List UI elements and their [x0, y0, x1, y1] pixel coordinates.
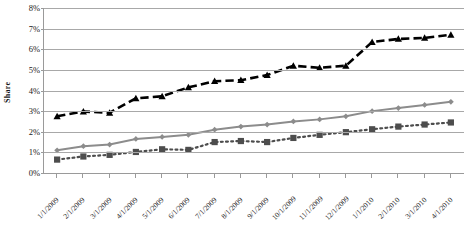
series-diamond	[54, 99, 454, 153]
series-diamond-marker	[343, 113, 349, 119]
series-diamond-marker	[133, 136, 139, 142]
x-axis-tick-mark	[450, 174, 451, 178]
gridline	[44, 111, 464, 112]
x-axis-tick-mark	[161, 174, 162, 178]
x-axis-tick-mark	[56, 174, 57, 178]
series-square-marker	[448, 119, 454, 125]
series-triangle-marker	[447, 31, 454, 37]
y-axis-tick-label: 6%	[16, 45, 40, 54]
x-axis-tick-mark	[397, 174, 398, 178]
share-line-chart: Share 0%1%2%3%4%5%6%7%8% 1/1/20092/1/200…	[0, 0, 470, 233]
x-axis-tick-mark	[266, 174, 267, 178]
y-axis-tick-mark	[41, 152, 44, 153]
y-axis-tick-mark	[41, 111, 44, 112]
series-triangle-marker	[369, 38, 376, 44]
x-axis-tick-mark	[292, 174, 293, 178]
series-triangle	[54, 31, 455, 119]
gridline	[44, 132, 464, 133]
series-diamond-marker	[448, 99, 454, 105]
y-axis-tick-label: 3%	[16, 107, 40, 116]
series-square-marker	[264, 139, 270, 145]
y-axis-title: Share	[0, 62, 14, 122]
y-axis-tick-label: 2%	[16, 128, 40, 137]
x-axis-tick-mark	[135, 174, 136, 178]
gridline	[44, 152, 464, 153]
x-axis-tick-mark	[82, 174, 83, 178]
series-square-line	[57, 122, 451, 159]
series-square-marker	[238, 138, 244, 144]
plot-area	[43, 8, 464, 173]
y-axis-tick-label: 0%	[16, 169, 40, 178]
series-diamond-marker	[80, 143, 86, 149]
x-axis-tick-mark	[240, 174, 241, 178]
series-square-marker	[80, 153, 86, 159]
x-axis-tick-mark	[319, 174, 320, 178]
series-diamond-marker	[185, 132, 191, 138]
y-axis-tick-label: 1%	[16, 148, 40, 157]
y-axis-tick-label: 7%	[16, 24, 40, 33]
gridline	[44, 8, 464, 9]
y-axis-tick-label: 8%	[16, 4, 40, 13]
gridline	[44, 91, 464, 92]
series-diamond-marker	[238, 124, 244, 130]
gridline	[44, 29, 464, 30]
series-diamond-marker	[159, 134, 165, 140]
series-square-marker	[54, 156, 60, 162]
x-axis-tick-mark	[187, 174, 188, 178]
series-diamond-marker	[317, 116, 323, 122]
y-axis-tick-mark	[41, 132, 44, 133]
series-diamond-line	[57, 102, 451, 150]
gridline	[44, 49, 464, 50]
x-axis-tick-mark	[371, 174, 372, 178]
x-axis-tick-mark	[109, 174, 110, 178]
y-axis-tick-mark	[41, 8, 44, 9]
x-axis-tick-mark	[345, 174, 346, 178]
series-square-marker	[212, 139, 218, 145]
y-axis-tick-mark	[41, 49, 44, 50]
y-axis-tick-mark	[41, 29, 44, 30]
series-diamond-marker	[395, 105, 401, 111]
x-axis-tick-mark	[214, 174, 215, 178]
series-diamond-marker	[422, 102, 428, 108]
y-axis-tick-mark	[41, 70, 44, 71]
y-axis-tick-mark	[41, 91, 44, 92]
y-axis-tick-labels: 0%1%2%3%4%5%6%7%8%	[14, 0, 40, 233]
series-square-marker	[422, 121, 428, 127]
y-axis-tick-label: 5%	[16, 66, 40, 75]
series-diamond-marker	[107, 142, 113, 148]
x-axis-tick-labels: 1/1/20092/1/20093/1/20094/1/20095/1/2009…	[43, 178, 464, 233]
series-diamond-marker	[264, 122, 270, 128]
series-triangle-marker	[132, 95, 139, 101]
series-square-marker	[395, 123, 401, 129]
series-diamond-marker	[290, 119, 296, 125]
gridline	[44, 70, 464, 71]
y-axis-tick-label: 4%	[16, 86, 40, 95]
series-triangle-line	[57, 35, 451, 116]
x-axis-tick-mark	[424, 174, 425, 178]
series-square-marker	[290, 135, 296, 141]
